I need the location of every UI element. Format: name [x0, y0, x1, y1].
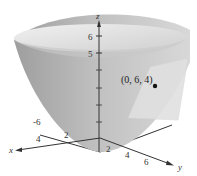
x-axis-arrow	[15, 148, 22, 153]
x-axis-label: x	[8, 145, 13, 155]
x-tick-4: 4	[36, 134, 41, 144]
z-tick-5: 5	[88, 49, 93, 59]
y-tick-4: 4	[125, 150, 130, 160]
y-tick-2: 2	[106, 144, 111, 154]
paraboloid-graph: z 6 5 x 4 2 y 2 4 6 -6 (0, 6, 4)	[0, 0, 197, 176]
point-label: (0, 6, 4)	[121, 74, 153, 86]
point-marker	[153, 84, 157, 88]
y-axis-label: y	[177, 162, 182, 172]
y-axis-arrow	[166, 161, 174, 166]
z-axis-label: z	[95, 11, 100, 21]
y-axis	[100, 138, 170, 164]
y-tick-6: 6	[144, 157, 149, 167]
z-tick-6: 6	[88, 32, 93, 42]
x-tick-2: 2	[64, 130, 69, 140]
y-tick-neg6: -6	[33, 117, 41, 127]
